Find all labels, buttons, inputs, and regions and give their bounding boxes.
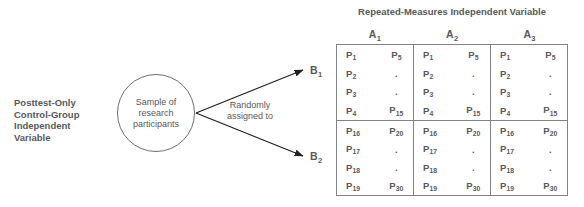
sample-circle: Sample of research participants <box>117 74 195 152</box>
participant-label: P20 <box>466 125 480 137</box>
participant-label-sub: 1 <box>353 54 357 61</box>
participant-label: P19 <box>423 180 437 192</box>
continuation-dot: . <box>549 162 552 173</box>
participant-label: P5 <box>468 49 478 61</box>
participant-label-sub: 3 <box>353 91 357 98</box>
participant-label-sub: 2 <box>507 73 511 80</box>
participant-label: P15 <box>466 104 480 116</box>
continuation-dot: . <box>472 68 475 79</box>
participant-label: P2 <box>500 68 510 80</box>
participant-label-text: P <box>389 125 395 136</box>
participant-label-sub: 5 <box>552 54 556 61</box>
participant-label-sub: 16 <box>353 130 361 137</box>
participant-label-sub: 15 <box>550 110 558 117</box>
participant-label: P30 <box>466 180 480 192</box>
design-label: Posttest-Only Control-Group Independent … <box>14 97 110 143</box>
participant-label-text: P <box>346 143 352 154</box>
assignment-label: Randomly assigned to <box>227 100 273 122</box>
participant-label-sub: 3 <box>507 91 511 98</box>
participant-label: P2 <box>346 68 356 80</box>
matrix-cell: P1P2P3P4P5..P15 <box>337 45 413 120</box>
participant-label: P18 <box>500 162 514 174</box>
participant-label-text: P <box>346 162 352 173</box>
participant-label: P18 <box>423 162 437 174</box>
participant-label-sub: 18 <box>353 167 361 174</box>
continuation-dot: . <box>472 86 475 97</box>
participant-label-text: P <box>500 105 506 116</box>
continuation-dot: . <box>472 144 475 155</box>
continuation-dot: . <box>549 86 552 97</box>
participant-label-sub: 4 <box>507 110 511 117</box>
participant-label-text: P <box>346 68 352 79</box>
participant-label-sub: 1 <box>430 54 434 61</box>
design-label-line-2: Control-Group <box>14 109 110 121</box>
participant-label-text: P <box>389 180 395 191</box>
participant-label-text: P <box>346 125 352 136</box>
sample-circle-line-1: Sample of <box>133 97 179 108</box>
participant-label: P18 <box>346 162 360 174</box>
column-header-a1-sub: 1 <box>377 34 381 43</box>
participant-label-sub: 30 <box>473 185 481 192</box>
participant-label: P17 <box>423 143 437 155</box>
row-label-b2-sub: 2 <box>318 156 322 165</box>
column-header-a2: A2 <box>413 28 490 40</box>
participant-label-sub: 1 <box>507 54 511 61</box>
participant-matrix: P1P2P3P4P5..P15P1P2P3P4P5..P15P1P2P3P4P5… <box>336 44 568 196</box>
continuation-dot: . <box>549 144 552 155</box>
participant-label-text: P <box>545 49 551 60</box>
matrix-subcolumn-left: P16P17P18P19 <box>491 125 534 193</box>
participant-label-sub: 4 <box>353 110 357 117</box>
row-label-b2: B2 <box>310 150 322 162</box>
participant-label: P15 <box>389 104 403 116</box>
participant-label-sub: 2 <box>430 73 434 80</box>
participant-label-sub: 30 <box>396 185 404 192</box>
participant-label-text: P <box>423 162 429 173</box>
participant-label-sub: 5 <box>475 54 479 61</box>
matrix-subcolumn-left: P1P2P3P4 <box>337 49 380 117</box>
continuation-dot: . <box>395 68 398 79</box>
participant-label-text: P <box>500 68 506 79</box>
participant-label: P4 <box>346 105 356 117</box>
participant-label: P5 <box>391 49 401 61</box>
participant-label: P1 <box>500 49 510 61</box>
participant-label: P20 <box>389 125 403 137</box>
participant-label: P19 <box>346 180 360 192</box>
column-header-a1: A1 <box>336 28 413 40</box>
matrix-subcolumn-left: P1P2P3P4 <box>414 49 457 117</box>
matrix-subcolumn-left: P16P17P18P19 <box>337 125 380 193</box>
row-label-b2-text: B <box>310 150 318 162</box>
matrix-subcolumn-right: P20..P30 <box>457 125 491 193</box>
design-label-line-4: Variable <box>14 132 110 144</box>
participant-label-sub: 19 <box>507 185 515 192</box>
participant-label: P15 <box>543 104 557 116</box>
participant-label-text: P <box>423 105 429 116</box>
row-label-b1-sub: 1 <box>318 70 322 79</box>
participant-label: P16 <box>500 125 514 137</box>
matrix-subcolumn-right: P5..P15 <box>457 49 491 117</box>
column-headers: A1 A2 A3 <box>336 28 568 40</box>
participant-label-sub: 18 <box>507 167 515 174</box>
matrix-cell: P16P17P18P19P20..P30 <box>413 121 490 196</box>
continuation-dot: . <box>395 162 398 173</box>
diagram-canvas: Posttest-Only Control-Group Independent … <box>0 0 584 207</box>
participant-label-sub: 19 <box>353 185 361 192</box>
participant-label: P16 <box>423 125 437 137</box>
participant-label-text: P <box>346 180 352 191</box>
column-header-a3: A3 <box>491 28 568 40</box>
participant-label-text: P <box>423 68 429 79</box>
participant-label-text: P <box>466 104 472 115</box>
matrix-subcolumn-left: P16P17P18P19 <box>414 125 457 193</box>
continuation-dot: . <box>549 68 552 79</box>
participant-label-text: P <box>389 104 395 115</box>
participant-label: P30 <box>543 180 557 192</box>
participant-label: P20 <box>543 125 557 137</box>
participant-label-text: P <box>466 180 472 191</box>
participant-label-sub: 5 <box>398 54 402 61</box>
assignment-label-line-2: assigned to <box>227 111 273 122</box>
participant-label-sub: 2 <box>353 73 357 80</box>
row-label-b1: B1 <box>310 64 322 76</box>
participant-label: P30 <box>389 180 403 192</box>
row-label-b1-text: B <box>310 64 318 76</box>
participant-label-text: P <box>543 104 549 115</box>
participant-label: P17 <box>346 143 360 155</box>
